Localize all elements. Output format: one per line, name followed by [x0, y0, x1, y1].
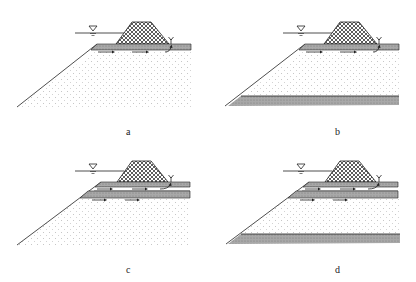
dam-seepage-diagram	[0, 0, 416, 282]
panel-c	[17, 161, 190, 245]
panel-d	[226, 161, 400, 244]
panel-label-d: d	[335, 264, 340, 275]
panel-a	[17, 22, 191, 107]
panel-b	[225, 22, 399, 106]
panel-label-b: b	[335, 126, 340, 137]
panel-label-c: c	[126, 264, 130, 275]
panel-label-a: a	[126, 126, 130, 137]
